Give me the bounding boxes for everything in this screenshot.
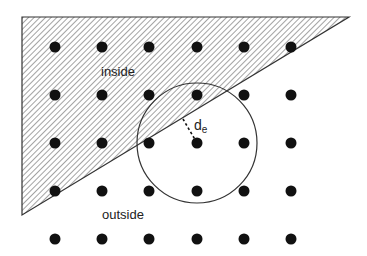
lattice-point (97, 186, 108, 197)
lattice-point (192, 186, 203, 197)
distance-symbol: d (194, 117, 202, 133)
lattice-point (239, 138, 250, 149)
lattice-point (286, 90, 297, 101)
lattice-point (192, 42, 203, 53)
lattice-point (239, 42, 250, 53)
inside-label: inside (101, 64, 135, 79)
lattice-point (144, 234, 155, 245)
lattice-point (192, 234, 203, 245)
lattice-point (97, 90, 108, 101)
lattice-point (50, 186, 61, 197)
lattice-point (144, 186, 155, 197)
lattice-point (50, 42, 61, 53)
lattice-point (50, 234, 61, 245)
lattice-point (50, 90, 61, 101)
distance-label: de (194, 117, 208, 135)
lattice-point (144, 42, 155, 53)
lattice-point (239, 90, 250, 101)
lattice-point (286, 138, 297, 149)
lattice-diagram: inside outside de (0, 0, 367, 256)
lattice-point (286, 234, 297, 245)
inside-region (22, 17, 349, 215)
lattice-point (97, 138, 108, 149)
lattice-point (286, 186, 297, 197)
lattice-point (97, 234, 108, 245)
lattice-point (50, 138, 61, 149)
lattice-point (144, 138, 155, 149)
lattice-point (144, 90, 155, 101)
lattice-point (192, 90, 203, 101)
outside-label: outside (102, 207, 144, 222)
lattice-point (286, 42, 297, 53)
lattice-point (239, 186, 250, 197)
distance-subscript: e (202, 124, 208, 135)
lattice-point (97, 42, 108, 53)
lattice-point (239, 234, 250, 245)
